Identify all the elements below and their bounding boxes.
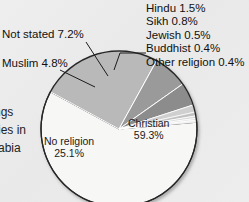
margin-text-line-2: ries in <box>0 121 26 139</box>
slice-label-christian-percent: 59.3% <box>128 130 169 142</box>
pie-slice-group <box>41 51 197 202</box>
slice-label-no-religion-percent: 25.1% <box>44 148 94 160</box>
callout-label-list-small-slices: Hindu 1.5% Sikh 0.8% Jewish 0.5% Buddhis… <box>146 2 244 69</box>
callout-label-jewish: Jewish 0.5% <box>146 29 244 42</box>
callout-label-not-stated: Not stated 7.2% <box>2 28 84 40</box>
callout-label-hindu: Hindu 1.5% <box>146 2 244 15</box>
pie-svg <box>41 51 197 202</box>
callout-label-muslim: Muslim 4.8% <box>2 57 68 69</box>
margin-text-line-3: rabia <box>0 139 26 157</box>
slice-label-christian-name: Christian <box>128 117 169 129</box>
callout-label-buddhist: Buddhist 0.4% <box>146 42 244 55</box>
margin-body-text: ngs ries in rabia <box>0 103 26 157</box>
pie-chart <box>41 51 197 202</box>
slice-label-no-religion: No religion 25.1% <box>44 136 94 160</box>
callout-label-sikh: Sikh 0.8% <box>146 15 244 28</box>
callout-label-other-religion: Other religion 0.4% <box>146 56 244 69</box>
margin-text-line-1: ngs <box>0 103 26 121</box>
slice-label-no-religion-name: No religion <box>44 135 94 147</box>
slice-label-christian: Christian 59.3% <box>128 118 169 142</box>
figure-canvas: ngs ries in rabia <box>0 0 249 202</box>
